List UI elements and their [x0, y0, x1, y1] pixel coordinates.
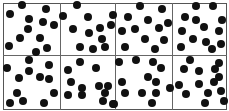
dot-r1-c1: [67, 78, 75, 86]
dot-r1-c3: [220, 97, 228, 105]
dot-r0-c2: [141, 35, 149, 43]
dot-r0-c1: [89, 45, 97, 53]
dot-r0-c0: [25, 15, 33, 23]
dot-r0-c2: [121, 43, 129, 51]
dot-r0-c2: [151, 45, 159, 53]
dot-grid-diagram: [0, 0, 229, 111]
dot-r0-c1: [98, 35, 106, 43]
dot-r0-c2: [160, 36, 168, 44]
dot-r1-c0: [40, 99, 48, 107]
dot-r1-c2: [149, 58, 157, 66]
dot-r1-c0: [19, 97, 27, 105]
dot-r1-c3: [186, 56, 194, 64]
dot-r0-c1: [59, 12, 67, 20]
dot-r1-c0: [45, 75, 53, 83]
dot-r0-c1: [76, 43, 84, 51]
column-divider-3: [172, 3, 173, 110]
dot-r1-c2: [144, 73, 152, 81]
dot-r0-c1: [85, 29, 93, 37]
dot-r0-c0: [39, 18, 47, 26]
dot-r0-c1: [109, 11, 117, 19]
dot-r1-c3: [204, 89, 212, 97]
dot-r1-c1: [99, 97, 107, 105]
dot-r1-c3: [195, 67, 203, 75]
dot-r0-c3: [209, 2, 217, 10]
dot-r1-c2: [166, 84, 174, 92]
dot-r0-c1: [73, 1, 81, 9]
dot-r0-c0: [6, 10, 14, 18]
dot-r0-c3: [181, 13, 189, 21]
dot-r0-c3: [189, 35, 197, 43]
dot-r1-c1: [78, 91, 86, 99]
dot-r1-c2: [110, 100, 118, 108]
dot-r0-c2: [136, 2, 144, 10]
dot-r0-c2: [118, 27, 126, 35]
column-divider-2: [115, 3, 116, 110]
dot-r1-c0: [50, 89, 58, 97]
dot-r1-c1: [92, 64, 100, 72]
dot-r0-c2: [158, 5, 166, 13]
dot-r1-c0: [13, 89, 21, 97]
dot-r1-c2: [152, 78, 160, 86]
dot-r0-c0: [18, 1, 26, 9]
dot-r0-c2: [155, 24, 163, 32]
dot-r1-c1: [76, 58, 84, 66]
dot-r1-c1: [101, 89, 109, 97]
dot-r1-c1: [64, 91, 72, 99]
dot-r1-c2: [115, 58, 123, 66]
dot-r0-c0: [16, 34, 24, 42]
dot-r1-c1: [64, 66, 72, 74]
dot-r1-c2: [118, 78, 126, 86]
dot-r0-c3: [192, 16, 200, 24]
dot-r0-c1: [69, 25, 77, 33]
dot-r1-c0: [25, 56, 33, 64]
dot-r1-c0: [3, 64, 11, 72]
dot-r0-c1: [84, 13, 92, 21]
dot-r0-c3: [200, 23, 208, 31]
dot-r0-c1: [101, 43, 109, 51]
dot-r1-c0: [45, 61, 53, 69]
dot-r0-c0: [43, 44, 51, 52]
dot-r1-c3: [211, 65, 219, 73]
dot-r1-c2: [132, 56, 140, 64]
dot-r1-c2: [121, 89, 129, 97]
dot-r0-c3: [217, 40, 225, 48]
dot-r1-c3: [182, 90, 190, 98]
dot-r0-c1: [107, 21, 115, 29]
dot-r0-c0: [42, 5, 50, 13]
dot-r1-c0: [25, 67, 33, 75]
dot-r0-c0: [50, 21, 58, 29]
dot-r1-c0: [6, 99, 14, 107]
dot-r0-c2: [131, 25, 139, 33]
dot-r1-c3: [180, 65, 188, 73]
dot-r0-c0: [5, 42, 13, 50]
dot-r0-c0: [36, 34, 44, 42]
dot-r1-c0: [15, 74, 23, 82]
dot-r0-c3: [218, 16, 226, 24]
dot-r0-c2: [144, 16, 152, 24]
dot-r1-c3: [175, 81, 183, 89]
dot-r0-c3: [192, 2, 200, 10]
dot-r0-c2: [164, 19, 172, 27]
dot-r0-c3: [178, 27, 186, 35]
dot-r0-c3: [215, 27, 223, 35]
dot-r1-c2: [152, 89, 160, 97]
dot-r1-c3: [217, 87, 225, 95]
dot-r0-c0: [24, 25, 32, 33]
dot-r0-c0: [32, 48, 40, 56]
dot-r0-c2: [124, 13, 132, 21]
dot-r0-c3: [177, 43, 185, 51]
dot-r1-c3: [210, 78, 218, 86]
dot-r1-c2: [157, 64, 165, 72]
dot-r0-c1: [96, 24, 104, 32]
dot-r1-c2: [138, 89, 146, 97]
dot-r1-c2: [148, 99, 156, 107]
dot-r0-c3: [208, 45, 216, 53]
dot-r1-c3: [201, 99, 209, 107]
dot-r1-c3: [195, 80, 203, 88]
dot-r1-c0: [36, 73, 44, 81]
